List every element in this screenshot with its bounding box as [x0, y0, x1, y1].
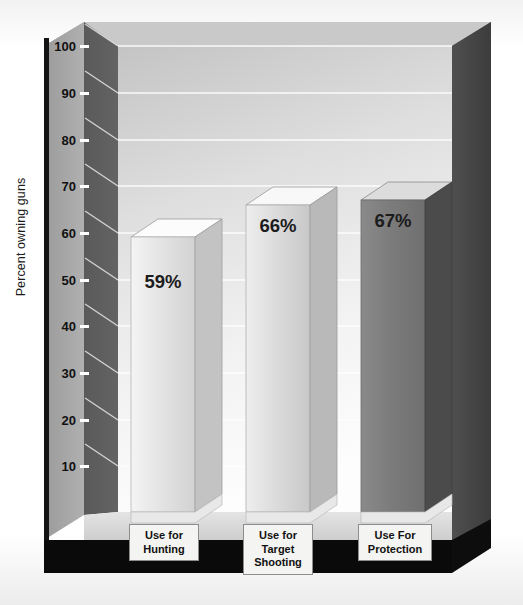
y-tick-dash-10 — [80, 465, 89, 468]
y-tick-30: 30 — [42, 366, 76, 381]
bar-caption-hunting-line1: Use for — [145, 529, 183, 541]
bar-protection-front — [361, 200, 425, 512]
y-tick-50: 50 — [42, 273, 76, 288]
y-tick-dash-60 — [80, 232, 89, 235]
bar-caption-target-line3: Shooting — [254, 556, 302, 568]
y-tick-dash-40 — [80, 325, 89, 328]
y-tick-10: 10 — [42, 459, 76, 474]
bar-chart: Percent owning guns 100 90 80 70 60 50 4… — [0, 0, 523, 605]
bar-hunting-side — [195, 219, 222, 512]
y-tick-40: 40 — [42, 319, 76, 334]
bar-caption-hunting[interactable]: Use for Hunting — [129, 524, 199, 561]
bar-caption-hunting-line2: Hunting — [143, 543, 185, 555]
bar-value-target: 66% — [233, 215, 323, 237]
bar-caption-target-shooting[interactable]: Use for Target Shooting — [243, 524, 313, 575]
y-axis-title: Percent owning guns — [14, 152, 28, 322]
bar-hunting[interactable] — [131, 219, 222, 512]
bar-value-hunting: 59% — [118, 271, 208, 293]
bar-value-protection: 67% — [348, 210, 438, 232]
bar-target-front — [246, 205, 310, 512]
y-tick-dash-50 — [80, 279, 89, 282]
y-tick-100: 100 — [42, 39, 76, 54]
y-tick-dash-20 — [80, 419, 89, 422]
y-tick-80: 80 — [42, 133, 76, 148]
y-tick-20: 20 — [42, 413, 76, 428]
y-tick-60: 60 — [42, 226, 76, 241]
bar-caption-protection[interactable]: Use For Protection — [358, 524, 432, 561]
plot-right-wall — [452, 22, 491, 545]
bar-caption-protection-line1: Use For — [375, 529, 416, 541]
y-tick-dash-100 — [80, 45, 89, 48]
y-tick-dash-30 — [80, 372, 89, 375]
bar-caption-target-line2: Target — [262, 543, 295, 555]
y-tick-dash-90 — [80, 92, 89, 95]
y-tick-dash-80 — [80, 139, 89, 142]
y-tick-dash-70 — [80, 185, 89, 188]
y-tick-70: 70 — [42, 179, 76, 194]
bar-caption-target-line1: Use for — [259, 529, 297, 541]
bar-caption-protection-line2: Protection — [368, 543, 422, 555]
chart-scene — [0, 0, 523, 605]
y-tick-90: 90 — [42, 86, 76, 101]
